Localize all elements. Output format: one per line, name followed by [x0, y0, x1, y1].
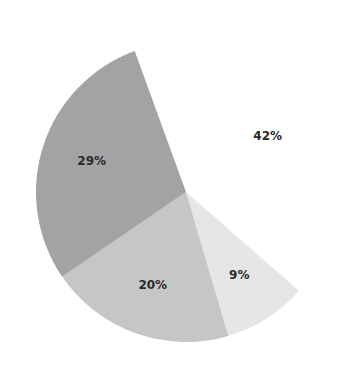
pie-slices — [36, 42, 336, 342]
slice-label-29: 29% — [77, 154, 106, 168]
pie-chart: 42%9%20%29% — [0, 0, 355, 373]
slice-label-20: 20% — [138, 278, 167, 292]
slice-label-42: 42% — [253, 129, 282, 143]
slice-label-9: 9% — [229, 268, 249, 282]
